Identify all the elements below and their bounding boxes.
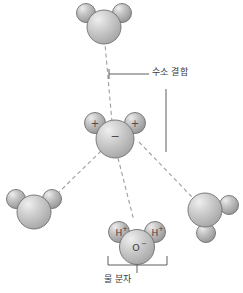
hydrogen-bond-center-to-left	[55, 151, 101, 196]
charge-label-hydrogen-positive: +	[131, 118, 139, 129]
oxygen-atom	[17, 195, 51, 229]
hydrogen-bond-leader-horizontal	[109, 69, 149, 79]
oxygen-atom	[188, 193, 222, 227]
charge-label-hydrogen-positive: +	[91, 118, 99, 129]
hydrogen-bond-center-to-bottom	[118, 158, 134, 221]
water-molecule-center: + + −	[85, 113, 146, 159]
charge-label-oxygen-negative: −	[110, 130, 119, 143]
oxygen-atom	[87, 10, 121, 44]
water-molecule-left	[7, 190, 62, 230]
charge-superscript-plus: +	[158, 225, 164, 233]
hydrogen-bond-center-to-top	[105, 44, 112, 122]
charge-superscript-plus: +	[122, 225, 128, 233]
water-molecule-label: 물 분자	[104, 274, 132, 285]
water-molecule-bottom-labeled: H + H + O −	[109, 222, 166, 265]
water-molecule-right	[188, 193, 239, 243]
charge-superscript-minus: −	[141, 240, 147, 248]
diagram-canvas: + + − H + H + O −	[0, 0, 243, 293]
hydrogen-bond-diagram: + + − H + H + O −	[0, 0, 243, 293]
hydrogen-bond-label: 수소 결합	[152, 67, 188, 78]
atom-label-oxygen: O	[132, 242, 139, 253]
water-molecule-top	[77, 4, 132, 45]
